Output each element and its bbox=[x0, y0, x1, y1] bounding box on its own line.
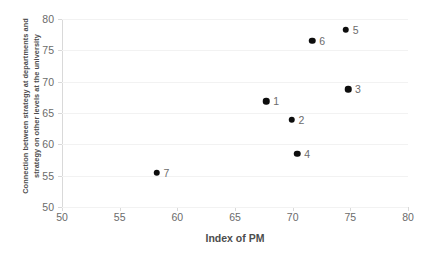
data-point-label-1: 1 bbox=[273, 95, 279, 107]
gridline-y-60 bbox=[62, 144, 408, 145]
gridline-y-80 bbox=[62, 19, 408, 20]
tick-label-y-65: 65 bbox=[28, 107, 54, 119]
data-point-marker-1[interactable] bbox=[263, 98, 270, 105]
scatter-chart: Connection between strategy at departmen… bbox=[0, 0, 427, 262]
gridline-y-55 bbox=[62, 176, 408, 177]
data-point-marker-6[interactable] bbox=[309, 38, 316, 45]
data-point-marker-5[interactable] bbox=[342, 26, 349, 33]
tick-label-y-80: 80 bbox=[28, 13, 54, 25]
tick-label-y-70: 70 bbox=[28, 76, 54, 88]
plot-area: 1234567 bbox=[62, 19, 408, 207]
data-point-label-3: 3 bbox=[355, 83, 361, 95]
tick-label-x-65: 65 bbox=[220, 211, 250, 223]
gridline-y-65 bbox=[62, 113, 408, 114]
tick-label-x-55: 55 bbox=[105, 211, 135, 223]
data-point-marker-7[interactable] bbox=[153, 169, 160, 176]
data-point-label-5: 5 bbox=[353, 24, 359, 36]
data-point-marker-4[interactable] bbox=[294, 150, 301, 157]
tick-label-y-60: 60 bbox=[28, 138, 54, 150]
tick-label-y-75: 75 bbox=[28, 44, 54, 56]
gridline-y-75 bbox=[62, 50, 408, 51]
tick-label-x-60: 60 bbox=[162, 211, 192, 223]
tick-label-y-55: 55 bbox=[28, 170, 54, 182]
tick-label-x-75: 75 bbox=[335, 211, 365, 223]
tick-label-x-80: 80 bbox=[393, 211, 423, 223]
gridline-y-50 bbox=[62, 207, 408, 208]
data-point-marker-3[interactable] bbox=[345, 86, 352, 93]
tick-label-x-70: 70 bbox=[278, 211, 308, 223]
x-axis-title: Index of PM bbox=[62, 232, 408, 244]
data-point-marker-2[interactable] bbox=[288, 117, 295, 124]
data-point-label-6: 6 bbox=[319, 35, 325, 47]
data-point-label-2: 2 bbox=[299, 114, 305, 126]
data-point-label-4: 4 bbox=[304, 148, 310, 160]
tick-label-x-50: 50 bbox=[47, 211, 77, 223]
data-point-label-7: 7 bbox=[164, 167, 170, 179]
